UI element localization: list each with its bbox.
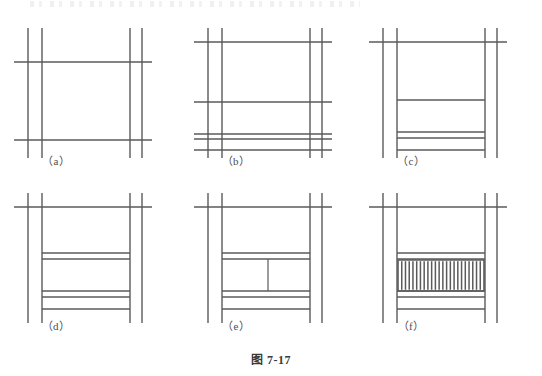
panel-label-e: （e） [206,317,266,333]
panel-label-d: （d） [26,317,86,333]
panel-label-a: （a） [26,152,86,168]
panel-label-f: （f） [381,317,441,333]
panel-e [194,193,332,323]
figure-root: （a） （b） （c） （d） （e） （f） 图 7-17 [0,0,542,376]
panel-a [14,28,152,158]
panel-d [14,193,152,323]
panel-label-c: （c） [381,152,441,168]
panel-f [369,193,507,323]
panel-c [369,28,507,158]
figure-caption: 图 7-17 [0,350,542,368]
panel-b [194,28,332,158]
panel-label-b: （b） [206,152,266,168]
